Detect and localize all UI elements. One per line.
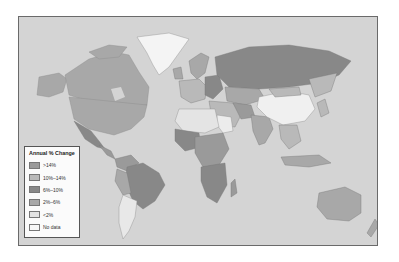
legend-item: No data bbox=[29, 221, 76, 233]
legend-swatch bbox=[29, 162, 40, 169]
map-legend: Annual % Change >14% 10%–14% 6%–10% 2%–6… bbox=[24, 146, 80, 238]
legend-label: 2%–6% bbox=[43, 199, 60, 205]
region-india[interactable] bbox=[251, 115, 273, 145]
region-argentina-chile[interactable] bbox=[119, 195, 137, 239]
legend-label: <2% bbox=[43, 212, 53, 218]
legend-swatch bbox=[29, 186, 40, 193]
region-north-africa[interactable] bbox=[175, 109, 219, 133]
legend-swatch bbox=[29, 199, 40, 206]
region-new-zealand[interactable] bbox=[367, 219, 377, 237]
legend-title: Annual % Change bbox=[29, 150, 76, 156]
region-iceland-uk[interactable] bbox=[173, 67, 183, 79]
region-japan-korea[interactable] bbox=[317, 99, 329, 117]
legend-swatch bbox=[29, 211, 40, 218]
region-scandinavia[interactable] bbox=[189, 53, 209, 79]
legend-label: No data bbox=[43, 224, 61, 230]
region-southeast-asia[interactable] bbox=[279, 125, 301, 149]
legend-item: 10%–14% bbox=[29, 171, 76, 183]
legend-item: <2% bbox=[29, 209, 76, 221]
region-indonesia[interactable] bbox=[281, 155, 331, 167]
legend-item: 6%–10% bbox=[29, 184, 76, 196]
region-alaska[interactable] bbox=[37, 73, 67, 97]
legend-label: 10%–14% bbox=[43, 175, 66, 181]
region-eastern-europe[interactable] bbox=[205, 75, 223, 99]
region-mongolia[interactable] bbox=[269, 87, 301, 97]
region-australia[interactable] bbox=[317, 187, 361, 221]
legend-swatch bbox=[29, 224, 40, 231]
region-saudi-arabia[interactable] bbox=[217, 115, 233, 133]
legend-label: 6%–10% bbox=[43, 187, 63, 193]
region-central-america[interactable] bbox=[99, 145, 115, 159]
legend-item: 2%–6% bbox=[29, 196, 76, 208]
legend-swatch bbox=[29, 174, 40, 181]
region-southern-africa[interactable] bbox=[201, 163, 227, 203]
legend-label: >14% bbox=[43, 162, 56, 168]
region-western-europe[interactable] bbox=[179, 79, 207, 103]
region-central-africa[interactable] bbox=[195, 133, 229, 167]
legend-item: >14% bbox=[29, 159, 76, 171]
region-madagascar[interactable] bbox=[231, 179, 237, 197]
